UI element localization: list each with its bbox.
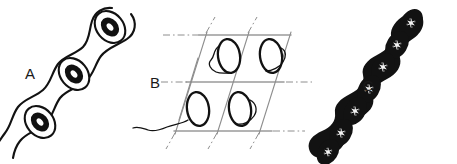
panel-c-label: C	[363, 77, 374, 94]
panel-a-label: A	[25, 65, 35, 82]
figure-container: A	[0, 0, 457, 164]
panel-b-label: B	[150, 74, 160, 91]
figure-canvas: A	[0, 0, 457, 164]
